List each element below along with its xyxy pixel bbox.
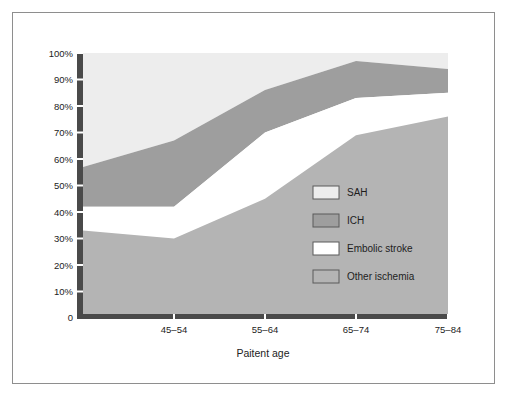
x-axis-tick-labels: 45–54 55–64 65–74 75–84	[161, 324, 461, 335]
y-tick-label: 40%	[54, 207, 74, 218]
legend-swatch-embolic-stroke	[313, 242, 339, 255]
y-tick-label: 60%	[54, 154, 74, 165]
y-tick-label: 70%	[54, 127, 74, 138]
y-axis-tick-labels: 100% 90% 80% 70% 60% 50% 40% 30% 20% 10%…	[49, 48, 74, 324]
figure-container: 100% 90% 80% 70% 60% 50% 40% 30% 20% 10%…	[0, 0, 507, 396]
legend-item-embolic-stroke: Embolic stroke	[313, 242, 413, 255]
legend-item-ich: ICH	[313, 214, 364, 227]
x-tick-label: 75–84	[435, 324, 461, 335]
stacked-area-chart: 100% 90% 80% 70% 60% 50% 40% 30% 20% 10%…	[0, 0, 507, 396]
legend-item-other-ischemia: Other ischemia	[313, 270, 415, 283]
y-tick-label: 100%	[49, 48, 74, 59]
x-axis-title: Paitent age	[236, 347, 289, 359]
legend-label: Other ischemia	[347, 271, 415, 282]
legend-label: ICH	[347, 215, 364, 226]
legend-swatch-ich	[313, 214, 339, 227]
y-tick-label: 90%	[54, 74, 74, 85]
x-tick-label: 55–64	[252, 324, 278, 335]
x-tick-label: 45–54	[161, 324, 187, 335]
y-tick-label: 0	[68, 312, 73, 323]
y-tick-label: 20%	[54, 260, 74, 271]
y-tick-label: 10%	[54, 286, 74, 297]
x-tick-label: 65–74	[343, 324, 369, 335]
y-tick-label: 50%	[54, 180, 74, 191]
legend-label: Embolic stroke	[347, 243, 413, 254]
legend-swatch-sah	[313, 186, 339, 199]
legend-label: SAH	[347, 187, 368, 198]
y-tick-label: 30%	[54, 233, 74, 244]
y-tick-label: 80%	[54, 101, 74, 112]
legend-swatch-other-ischemia	[313, 270, 339, 283]
x-axis-line	[77, 314, 448, 319]
